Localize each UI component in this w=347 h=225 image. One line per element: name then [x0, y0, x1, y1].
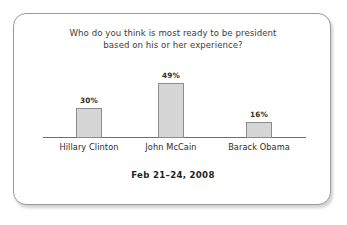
category-label-barack-obama: Barack Obama — [204, 142, 314, 152]
bar-john-mccain[interactable] — [158, 83, 184, 138]
bar-value-hillary-clinton: 30% — [59, 96, 119, 105]
bar-barack-obama[interactable] — [246, 122, 272, 138]
bar-value-john-mccain: 49% — [141, 71, 201, 80]
chart-caption: Feb 21–24, 2008 — [30, 170, 316, 180]
chart-card: Who do you think is most ready to be pre… — [13, 13, 331, 205]
bar-value-barack-obama: 16% — [229, 110, 289, 119]
bar-hillary-clinton[interactable] — [76, 108, 102, 138]
